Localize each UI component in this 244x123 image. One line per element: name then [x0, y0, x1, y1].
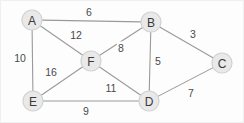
edge-weight-b-d: 5	[155, 55, 161, 67]
edge-a-b	[42, 20, 141, 22]
node-label-b: B	[147, 16, 155, 30]
edges-layer	[32, 20, 213, 101]
node-label-d: D	[145, 95, 154, 109]
nodes-layer: ABCDEF	[22, 10, 232, 111]
node-d[interactable]: D	[139, 91, 159, 111]
graph-canvas: ABCDEF 61210385711916	[1, 1, 244, 123]
edge-weight-b-c: 3	[190, 28, 196, 40]
edge-weight-b-f: 8	[118, 42, 124, 54]
node-e[interactable]: E	[23, 91, 43, 111]
node-b[interactable]: B	[141, 12, 161, 32]
node-label-e: E	[29, 95, 37, 109]
edge-weight-a-b: 6	[86, 6, 92, 18]
edge-weight-e-f: 16	[45, 66, 57, 78]
edge-b-d	[149, 32, 150, 91]
edge-weight-d-f: 11	[106, 82, 117, 94]
graph-diagram: ABCDEF 61210385711916	[0, 0, 244, 123]
edge-weight-a-f: 12	[70, 29, 82, 41]
edge-weight-c-d: 7	[188, 87, 194, 99]
node-label-a: A	[28, 14, 36, 28]
edge-weight-d-e: 9	[83, 105, 89, 117]
node-label-c: C	[218, 57, 227, 71]
node-c[interactable]: C	[212, 53, 232, 73]
node-label-f: F	[87, 55, 94, 69]
edge-a-e	[32, 30, 33, 91]
node-f[interactable]: F	[81, 51, 101, 71]
edge-c-d	[158, 68, 213, 97]
edge-b-c	[160, 27, 214, 58]
edge-weight-a-e: 10	[14, 52, 26, 64]
node-a[interactable]: A	[22, 10, 42, 30]
